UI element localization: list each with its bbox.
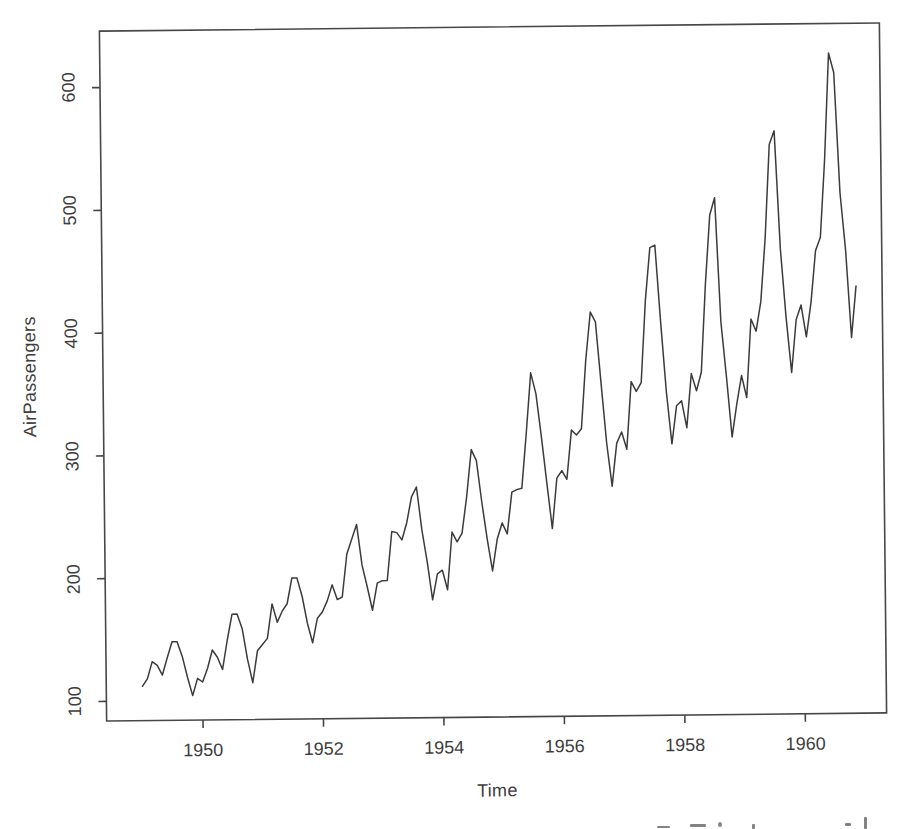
clipped-text-artifact bbox=[752, 824, 755, 829]
airpassengers-series-line bbox=[136, 53, 860, 696]
x-tick-label-1956: 1956 bbox=[545, 736, 585, 757]
time-series-line-chart bbox=[0, 0, 908, 829]
airpassengers-figure: AirPassengers Time 195019521954195619581… bbox=[0, 0, 908, 829]
x-tick-label-1958: 1958 bbox=[665, 735, 705, 756]
y-tick-label-600: 600 bbox=[58, 73, 79, 103]
clipped-text-artifact bbox=[864, 817, 867, 829]
clipped-text-artifact bbox=[690, 824, 706, 827]
y-tick-label-500: 500 bbox=[60, 196, 81, 226]
clipped-text-artifact bbox=[718, 822, 722, 827]
plot-canvas: AirPassengers Time 195019521954195619581… bbox=[0, 0, 908, 829]
clipped-text-artifact bbox=[845, 823, 851, 826]
y-axis-title: AirPassengers bbox=[19, 316, 41, 437]
clipped-text-artifact bbox=[657, 826, 670, 828]
x-tick-label-1952: 1952 bbox=[304, 739, 344, 760]
x-tick-label-1960: 1960 bbox=[785, 734, 825, 755]
y-tick-label-400: 400 bbox=[61, 318, 82, 348]
x-tick-label-1950: 1950 bbox=[183, 740, 223, 761]
plot-border-box bbox=[99, 23, 886, 721]
x-tick-label-1954: 1954 bbox=[424, 737, 464, 758]
y-tick-label-300: 300 bbox=[62, 441, 83, 471]
x-axis-title: Time bbox=[477, 780, 518, 801]
y-tick-label-100: 100 bbox=[65, 687, 86, 717]
y-tick-label-200: 200 bbox=[63, 564, 84, 594]
